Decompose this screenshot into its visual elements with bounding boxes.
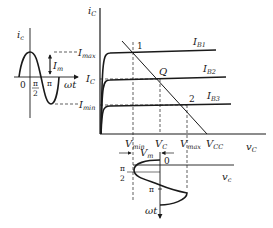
ib3-label: IB3 [206,90,220,103]
imax-label: Imax [77,47,96,60]
ib2-label: IB2 [202,63,216,76]
bottom-waveform [119,152,234,218]
left-pi-label: π [47,79,52,88]
main-axes [100,8,266,134]
left-ic-label: ic [17,29,24,42]
bottom-pi-half-den: 2 [120,174,125,183]
bottom-pi-label: π [149,185,154,194]
curve-ib1 [101,50,216,134]
curve-ib3 [101,104,231,134]
output-characteristics-diagram: iC vC IB1 IB2 IB3 1 Q 2 Imax IC Imin Vmi… [0,0,273,228]
imin-label: Imin [78,99,95,112]
left-zero-label: 0 [20,80,26,90]
point-q-label: Q [159,66,167,77]
vc-axis-label: vC [246,141,257,154]
bottom-pi-half-num: π [120,164,125,173]
im-label: Im [52,60,63,73]
ic-axis-label: iC [88,5,96,18]
point-2-label: 2 [189,94,195,104]
bottom-vc-label: vc [222,171,232,184]
ib1-label: IB1 [192,36,206,49]
vmax-label: Vmax [180,138,201,151]
ic-label: IC [85,73,95,86]
left-pi-half-den: 2 [33,89,38,98]
left-pi-half-num: π [33,79,38,88]
point-1-label: 1 [137,41,143,51]
load-line [122,41,207,134]
vm-label: Vm [140,147,153,160]
left-wt-label: ωt [64,79,77,90]
bottom-wt-label: ωt [145,205,158,216]
characteristic-curves [101,50,231,134]
bottom-zero-label: 0 [164,156,170,166]
vc-label: VC [155,138,167,151]
vcc-label: VCC [206,138,223,151]
